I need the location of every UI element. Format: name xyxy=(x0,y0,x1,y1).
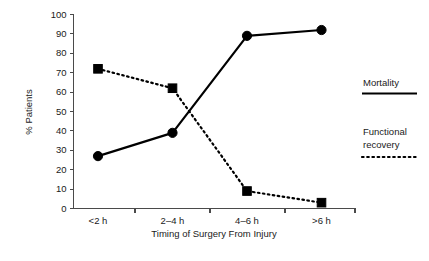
chart-legend: Mortality Functional recovery xyxy=(362,77,417,157)
legend-label-functional-line1: Functional xyxy=(363,126,407,137)
x-tick-group: <2 h2–4 h4–6 h>6 h xyxy=(89,209,355,226)
y-tick-label: 100 xyxy=(51,9,67,20)
x-axis: <2 h2–4 h4–6 h>6 h Timing of Surgery Fro… xyxy=(74,209,357,240)
legend-label-mortality: Mortality xyxy=(363,77,399,88)
chart-figure: % Patients 0102030405060708090100 <2 h2–… xyxy=(0,0,429,261)
y-tick-label: 50 xyxy=(56,106,67,117)
y-axis-title: % Patients xyxy=(23,89,34,135)
y-tick-label: 90 xyxy=(56,28,67,39)
line-chart-canvas: % Patients 0102030405060708090100 <2 h2–… xyxy=(0,0,429,261)
y-tick-label: 20 xyxy=(56,164,67,175)
data-point-square xyxy=(243,187,252,196)
y-tick-label: 80 xyxy=(56,47,67,58)
data-point-square xyxy=(168,84,177,93)
y-tick-label: 10 xyxy=(56,183,67,194)
legend-label-functional-line2: recovery xyxy=(363,139,400,150)
y-axis: 0102030405060708090100 xyxy=(51,9,74,214)
y-tick-label: 70 xyxy=(56,67,67,78)
y-tick-label: 40 xyxy=(56,125,67,136)
series-group xyxy=(93,25,326,207)
x-tick-label: <2 h xyxy=(89,215,108,226)
x-axis-title: Timing of Surgery From Injury xyxy=(151,228,277,239)
y-tick-label: 30 xyxy=(56,144,67,155)
data-point-circle xyxy=(317,25,326,34)
y-tick-group: 0102030405060708090100 xyxy=(51,9,74,214)
y-tick-label: 0 xyxy=(61,203,66,214)
series-line-functional-recovery xyxy=(98,69,322,203)
data-point-square xyxy=(317,198,326,207)
x-tick-label: 4–6 h xyxy=(235,215,259,226)
data-point-circle xyxy=(168,128,177,137)
data-point-circle xyxy=(93,152,102,161)
data-point-circle xyxy=(242,31,251,40)
y-axis-title-group: % Patients xyxy=(23,89,34,135)
data-point-square xyxy=(94,65,103,74)
x-tick-label: >6 h xyxy=(312,215,331,226)
x-tick-label: 2–4 h xyxy=(161,215,185,226)
y-tick-label: 60 xyxy=(56,86,67,97)
series-line-mortality xyxy=(98,30,322,156)
